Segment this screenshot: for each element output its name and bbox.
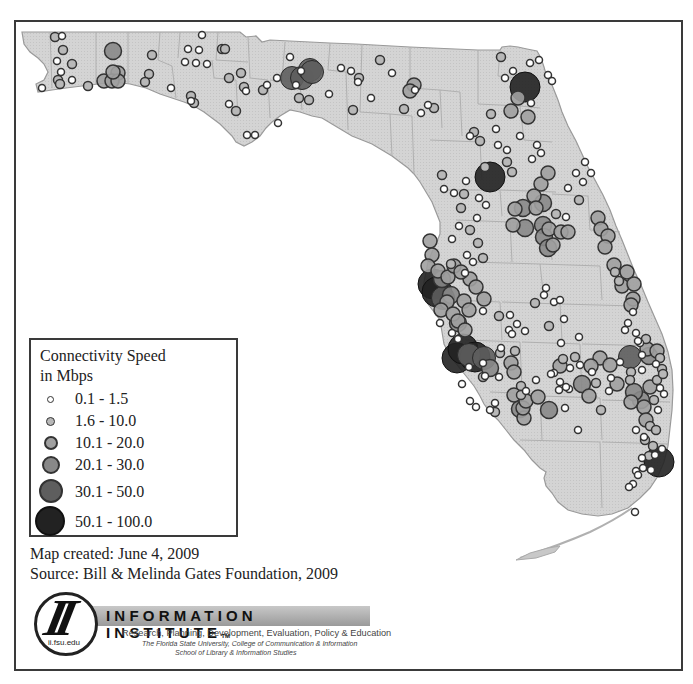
library-point — [496, 374, 503, 381]
library-point — [193, 60, 200, 67]
library-point — [531, 299, 540, 308]
library-point — [39, 85, 46, 92]
library-point — [538, 150, 545, 157]
library-point — [652, 452, 659, 459]
library-point — [458, 323, 472, 337]
library-point — [582, 389, 596, 403]
library-point — [639, 455, 646, 462]
library-point — [441, 186, 448, 193]
library-point — [580, 179, 587, 186]
legend-item: 20.1 - 30.0 — [31, 454, 231, 478]
library-point — [389, 70, 396, 77]
library-point — [562, 405, 569, 412]
library-point — [536, 57, 543, 64]
library-point — [463, 178, 470, 185]
library-point — [456, 223, 463, 230]
library-point — [148, 51, 157, 60]
library-point — [466, 226, 475, 235]
library-point — [487, 110, 496, 119]
library-point — [182, 59, 189, 66]
library-point — [476, 195, 483, 202]
library-point — [653, 361, 660, 368]
library-point — [514, 321, 521, 328]
library-point — [275, 120, 282, 127]
library-point — [480, 308, 487, 315]
library-point — [639, 367, 646, 374]
library-point — [355, 79, 362, 86]
library-point — [470, 259, 477, 266]
library-point — [639, 352, 646, 359]
library-point — [221, 45, 230, 54]
library-point — [603, 358, 617, 372]
library-point — [462, 303, 476, 317]
library-point — [497, 53, 506, 62]
library-point — [556, 387, 563, 394]
map-source: Source: Bill & Melinda Gates Foundation,… — [30, 564, 338, 584]
library-point — [243, 88, 250, 95]
library-point — [659, 370, 668, 379]
circle-icon — [44, 436, 58, 450]
library-point — [511, 347, 520, 356]
library-point — [561, 225, 575, 239]
library-point — [449, 236, 456, 243]
library-point — [105, 43, 122, 60]
map-created-date: Map created: June 4, 2009 — [30, 544, 199, 564]
library-point — [84, 82, 93, 91]
library-point — [438, 171, 447, 180]
library-point — [462, 270, 469, 277]
library-point — [543, 285, 550, 292]
library-point — [522, 328, 529, 335]
library-point — [141, 78, 150, 87]
library-point — [295, 94, 304, 103]
library-point — [464, 252, 471, 259]
library-point — [305, 96, 314, 105]
library-point — [575, 196, 584, 205]
library-point — [244, 132, 251, 139]
library-point — [481, 163, 490, 172]
library-point — [449, 330, 456, 337]
library-point — [459, 381, 466, 388]
library-point — [625, 320, 632, 327]
library-point — [451, 190, 458, 197]
library-point — [252, 132, 259, 139]
library-point — [474, 215, 481, 222]
library-point — [507, 365, 521, 379]
library-point — [561, 316, 568, 323]
library-point — [264, 82, 271, 89]
library-point — [510, 68, 517, 75]
library-point — [473, 404, 480, 411]
library-point — [548, 371, 555, 378]
library-point — [287, 54, 294, 61]
library-point — [633, 330, 640, 337]
library-point — [412, 87, 419, 94]
library-point — [196, 47, 203, 54]
library-point — [59, 46, 68, 55]
library-point — [56, 80, 65, 89]
library-point — [474, 239, 483, 248]
library-point — [626, 484, 633, 491]
library-point — [649, 442, 658, 451]
library-point — [592, 379, 601, 388]
library-point — [58, 69, 65, 76]
library-point — [557, 297, 564, 304]
library-point — [633, 427, 640, 434]
library-point — [577, 362, 584, 369]
library-point — [533, 377, 540, 384]
library-point — [541, 166, 555, 180]
library-point — [495, 142, 502, 149]
library-point — [237, 69, 246, 78]
library-point — [641, 434, 648, 441]
library-point — [495, 312, 504, 321]
library-point — [509, 331, 516, 338]
logo-institution: The Florida State University, College of… — [142, 640, 357, 647]
information-institute-logo: II ii.fsu.edu INFORMATION INSTITUTETM Re… — [30, 590, 380, 665]
library-point — [588, 170, 595, 177]
library-point — [168, 85, 175, 92]
library-point — [368, 95, 375, 102]
library-point — [498, 345, 505, 352]
library-point — [549, 78, 556, 85]
library-point — [557, 379, 564, 386]
library-point — [423, 234, 437, 248]
library-point — [635, 338, 642, 345]
library-point — [482, 373, 489, 380]
